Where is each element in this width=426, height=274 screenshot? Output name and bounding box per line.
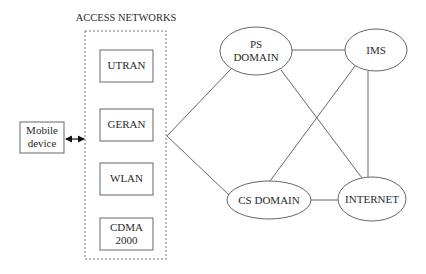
wlan-label-text: WLAN: [110, 172, 143, 184]
internet-label-text: INTERNET: [345, 193, 399, 205]
geran-label-text: GERAN: [108, 118, 146, 130]
utran-label: UTRAN: [100, 59, 153, 72]
mobile-device-label-line2: device: [20, 137, 64, 150]
ims-label: IMS: [345, 44, 407, 57]
edge-access-ps: [167, 69, 231, 136]
ps-domain-label: PS DOMAIN: [220, 38, 292, 64]
edge-access-cs: [167, 136, 229, 195]
access-networks-title: ACCESS NETWORKS: [66, 11, 186, 24]
geran-label: GERAN: [100, 118, 153, 131]
mobile-device-label: Mobile device: [20, 124, 64, 150]
edge-ps-internet: [281, 70, 362, 178]
mobile-device-label-line1: Mobile: [20, 124, 64, 137]
ps-domain-label-line2: DOMAIN: [220, 51, 292, 64]
edge-ims-cs: [270, 66, 355, 181]
ps-domain-label-line1: PS: [220, 38, 292, 51]
cdma2000-label-line2: 2000: [100, 234, 153, 247]
cs-domain-label-text: CS DOMAIN: [238, 194, 299, 206]
wlan-label: WLAN: [100, 172, 153, 185]
cdma2000-label-line1: CDMA: [100, 221, 153, 234]
utran-label-text: UTRAN: [108, 59, 146, 71]
internet-label: INTERNET: [338, 193, 406, 206]
cs-domain-label: CS DOMAIN: [227, 194, 311, 207]
cdma2000-label: CDMA 2000: [100, 221, 153, 247]
ims-label-text: IMS: [366, 44, 386, 56]
